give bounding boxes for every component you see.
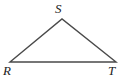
vertex-label-t: T — [108, 64, 115, 77]
vertex-label-r: R — [3, 64, 11, 77]
triangle-outline — [10, 19, 116, 62]
vertex-label-s: S — [55, 2, 62, 15]
triangle-figure: S R T — [0, 0, 126, 82]
